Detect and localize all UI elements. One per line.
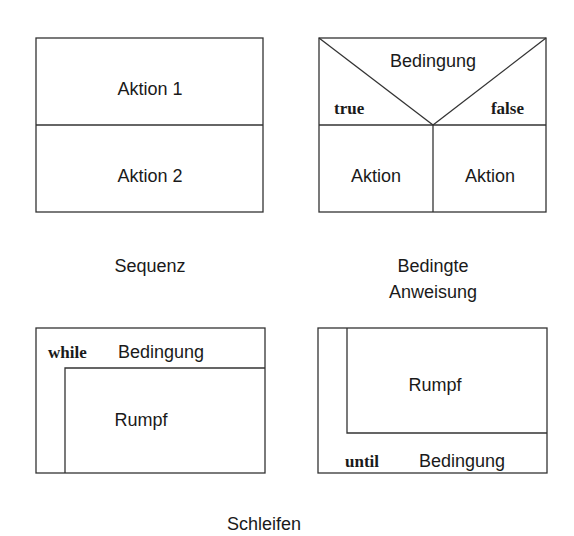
until-body: Rumpf (408, 375, 462, 395)
while-loop-block: while Bedingung Rumpf (36, 328, 265, 473)
sequence-caption: Sequenz (114, 256, 185, 276)
while-body: Rumpf (114, 410, 168, 430)
sequence-block: Aktion 1 Aktion 2 Sequenz (36, 38, 263, 276)
loops-caption: Schleifen (227, 514, 301, 534)
sequence-action-1: Aktion 1 (117, 79, 182, 99)
conditional-caption-line1: Bedingte (397, 256, 468, 276)
conditional-action-right: Aktion (465, 166, 515, 186)
conditional-false-label: false (491, 99, 525, 118)
until-loop-block: Rumpf until Bedingung (318, 328, 547, 473)
conditional-action-left: Aktion (351, 166, 401, 186)
structogram-diagram: Aktion 1 Aktion 2 Sequenz Bedingung true… (0, 0, 574, 536)
while-condition: Bedingung (118, 342, 204, 362)
conditional-caption-line2: Anweisung (389, 282, 477, 302)
while-keyword: while (48, 343, 87, 362)
conditional-true-label: true (334, 99, 365, 118)
conditional-block: Bedingung true false Aktion Aktion Bedin… (319, 38, 546, 302)
conditional-condition: Bedingung (390, 51, 476, 71)
until-keyword: until (345, 452, 379, 471)
until-condition: Bedingung (419, 451, 505, 471)
sequence-action-2: Aktion 2 (117, 166, 182, 186)
